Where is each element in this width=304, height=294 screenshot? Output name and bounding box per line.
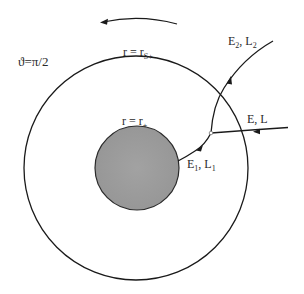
- incoming-label: E, L: [247, 113, 268, 125]
- infalling-label: E1, L1: [187, 158, 216, 170]
- diagram-canvas: [0, 0, 304, 294]
- escaping-momentum: L: [245, 34, 252, 48]
- infalling-momentum-sub: 1: [212, 164, 216, 173]
- escaping-momentum-sub: 2: [253, 41, 257, 50]
- infalling-momentum: L: [204, 157, 211, 171]
- incoming-momentum: L: [260, 112, 267, 126]
- incoming-trajectory: [211, 128, 288, 135]
- infalling-arrow-icon: [196, 145, 203, 152]
- ergosphere-label: r = rS+: [123, 46, 153, 58]
- horizon-label-text: r = r: [122, 114, 143, 128]
- rotation-arrow-icon: [100, 18, 177, 24]
- ergosphere-label-text: r = r: [123, 45, 144, 59]
- theta-label: ϑ=π/2: [18, 55, 48, 68]
- horizon-label: r = r+: [122, 115, 147, 127]
- escaping-label: E2, L2: [228, 35, 257, 47]
- ergosphere-label-sub: S+: [144, 52, 153, 61]
- horizon-label-sub: +: [143, 121, 148, 130]
- event-horizon-disk: [95, 126, 179, 210]
- theta-label-text: ϑ=π/2: [18, 54, 48, 69]
- split-point-marker: [209, 131, 213, 135]
